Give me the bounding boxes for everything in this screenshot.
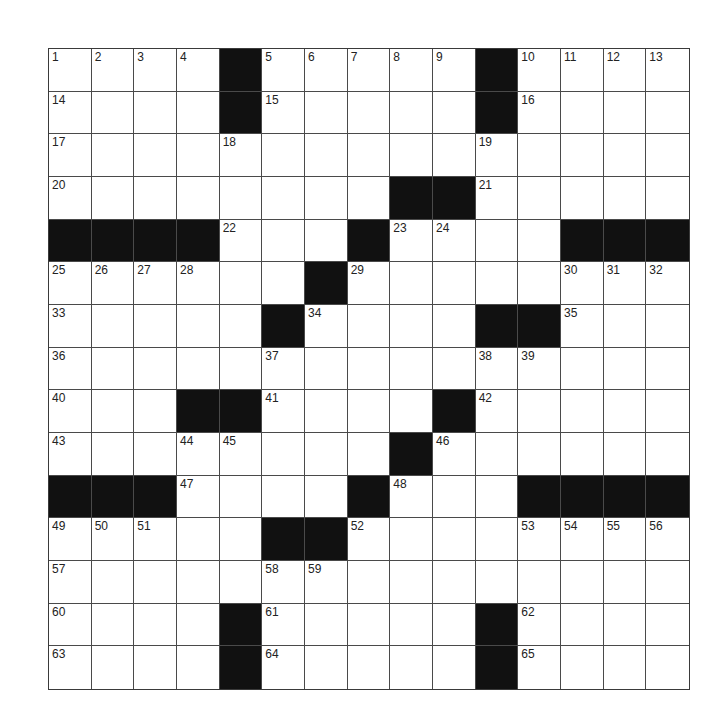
grid-cell[interactable]: 30 [561,262,604,305]
grid-cell[interactable]: 47 [177,476,220,519]
grid-cell[interactable] [390,305,433,348]
grid-cell[interactable] [134,348,177,391]
grid-cell[interactable] [305,134,348,177]
grid-cell[interactable] [92,134,135,177]
grid-cell[interactable] [604,433,647,476]
grid-cell[interactable] [134,604,177,647]
grid-cell[interactable]: 10 [518,49,561,92]
grid-cell[interactable] [134,305,177,348]
grid-cell[interactable] [220,177,263,220]
grid-cell[interactable] [561,348,604,391]
grid-cell[interactable]: 29 [348,262,391,305]
grid-cell[interactable] [92,561,135,604]
grid-cell[interactable]: 38 [476,348,519,391]
grid-cell[interactable] [92,646,135,689]
grid-cell[interactable]: 12 [604,49,647,92]
grid-cell[interactable] [561,433,604,476]
grid-cell[interactable]: 8 [390,49,433,92]
grid-cell[interactable]: 52 [348,518,391,561]
grid-cell[interactable] [433,646,476,689]
grid-cell[interactable] [262,262,305,305]
grid-cell[interactable] [433,604,476,647]
grid-cell[interactable] [92,348,135,391]
grid-cell[interactable]: 33 [49,305,92,348]
grid-cell[interactable] [561,177,604,220]
grid-cell[interactable] [646,561,689,604]
grid-cell[interactable]: 49 [49,518,92,561]
grid-cell[interactable] [390,262,433,305]
grid-cell[interactable] [262,476,305,519]
grid-cell[interactable] [518,262,561,305]
grid-cell[interactable]: 19 [476,134,519,177]
grid-cell[interactable] [262,177,305,220]
grid-cell[interactable] [348,604,391,647]
grid-cell[interactable]: 37 [262,348,305,391]
grid-cell[interactable] [262,220,305,263]
grid-cell[interactable] [348,177,391,220]
grid-cell[interactable] [305,433,348,476]
grid-cell[interactable] [134,433,177,476]
grid-cell[interactable]: 42 [476,390,519,433]
grid-cell[interactable] [646,433,689,476]
grid-cell[interactable] [433,518,476,561]
grid-cell[interactable] [476,476,519,519]
grid-cell[interactable]: 48 [390,476,433,519]
grid-cell[interactable] [390,348,433,391]
grid-cell[interactable] [92,390,135,433]
grid-cell[interactable]: 46 [433,433,476,476]
grid-cell[interactable] [177,305,220,348]
grid-cell[interactable] [177,561,220,604]
grid-cell[interactable] [134,177,177,220]
grid-cell[interactable]: 50 [92,518,135,561]
grid-cell[interactable]: 9 [433,49,476,92]
grid-cell[interactable] [433,348,476,391]
grid-cell[interactable] [134,646,177,689]
grid-cell[interactable] [262,433,305,476]
grid-cell[interactable]: 5 [262,49,305,92]
grid-cell[interactable] [134,390,177,433]
grid-cell[interactable]: 20 [49,177,92,220]
grid-cell[interactable] [433,262,476,305]
grid-cell[interactable] [561,646,604,689]
grid-cell[interactable] [177,646,220,689]
grid-cell[interactable] [476,220,519,263]
grid-cell[interactable]: 16 [518,92,561,135]
grid-cell[interactable] [305,646,348,689]
grid-cell[interactable]: 55 [604,518,647,561]
grid-cell[interactable]: 22 [220,220,263,263]
grid-cell[interactable] [561,390,604,433]
grid-cell[interactable]: 61 [262,604,305,647]
grid-cell[interactable]: 11 [561,49,604,92]
grid-cell[interactable]: 24 [433,220,476,263]
grid-cell[interactable] [92,92,135,135]
grid-cell[interactable] [390,561,433,604]
grid-cell[interactable] [433,134,476,177]
grid-cell[interactable] [390,518,433,561]
grid-cell[interactable] [305,177,348,220]
grid-cell[interactable]: 54 [561,518,604,561]
grid-cell[interactable] [134,92,177,135]
grid-cell[interactable] [348,561,391,604]
grid-cell[interactable] [220,476,263,519]
grid-cell[interactable]: 40 [49,390,92,433]
grid-cell[interactable]: 51 [134,518,177,561]
grid-cell[interactable] [518,390,561,433]
grid-cell[interactable]: 44 [177,433,220,476]
grid-cell[interactable] [604,305,647,348]
grid-cell[interactable] [476,518,519,561]
grid-cell[interactable] [646,92,689,135]
grid-cell[interactable]: 56 [646,518,689,561]
grid-cell[interactable]: 43 [49,433,92,476]
grid-cell[interactable] [518,220,561,263]
grid-cell[interactable] [348,646,391,689]
grid-cell[interactable]: 57 [49,561,92,604]
grid-cell[interactable] [92,305,135,348]
grid-cell[interactable] [134,134,177,177]
grid-cell[interactable]: 21 [476,177,519,220]
grid-cell[interactable] [604,134,647,177]
grid-cell[interactable] [92,433,135,476]
grid-cell[interactable] [390,646,433,689]
grid-cell[interactable]: 14 [49,92,92,135]
grid-cell[interactable]: 7 [348,49,391,92]
grid-cell[interactable] [476,433,519,476]
